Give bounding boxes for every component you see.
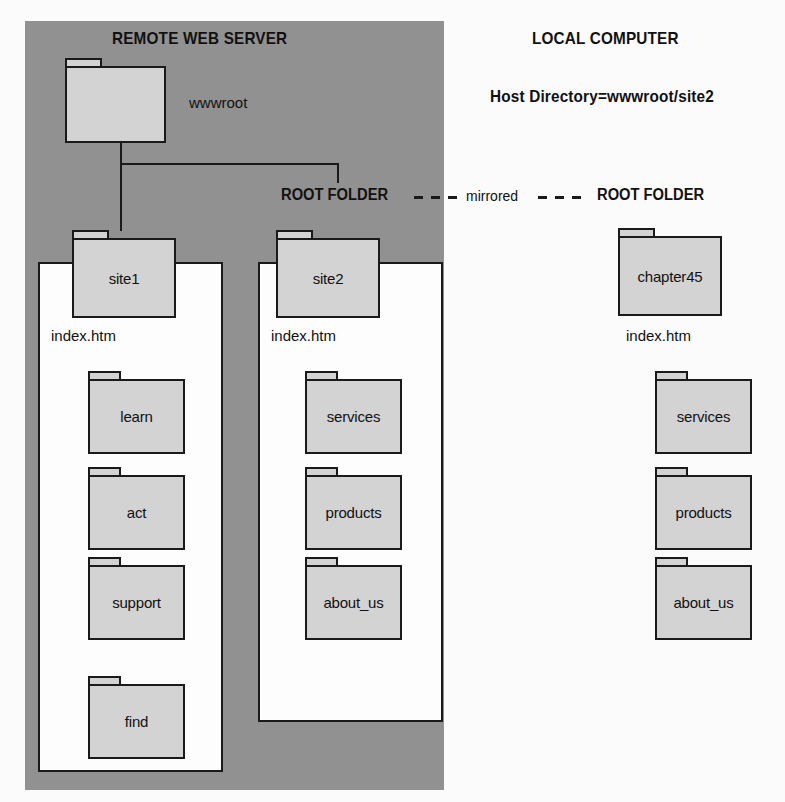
folder-label-site2: site2 <box>313 270 344 287</box>
folder-services-server[interactable]: services <box>305 371 402 454</box>
folder-label-find: find <box>125 713 148 730</box>
folder-about-us-local[interactable]: about_us <box>655 557 752 640</box>
folder-body: services <box>305 379 402 454</box>
folder-label-services: services <box>677 408 730 425</box>
folder-body: site1 <box>72 238 176 318</box>
folder-act[interactable]: act <box>88 467 185 550</box>
connector-branch-site2 <box>337 163 339 183</box>
mirrored-dash-left <box>414 196 460 199</box>
mirrored-label: mirrored <box>466 188 518 204</box>
local-computer-title: LOCAL COMPUTER <box>532 29 679 49</box>
remote-web-server-title: REMOTE WEB SERVER <box>112 29 287 49</box>
folder-body: learn <box>88 379 185 454</box>
site2-index-file: index.htm <box>271 327 336 344</box>
diagram-canvas: REMOTE WEB SERVER LOCAL COMPUTER Host Di… <box>0 0 785 802</box>
folder-chapter45[interactable]: chapter45 <box>618 228 722 316</box>
folder-site2[interactable]: site2 <box>276 230 380 318</box>
folder-label-support: support <box>112 594 161 611</box>
connector-branch-site1 <box>120 163 122 231</box>
folder-body: support <box>88 565 185 640</box>
folder-products-local[interactable]: products <box>655 467 752 550</box>
folder-body: site2 <box>276 238 380 318</box>
folder-learn[interactable]: learn <box>88 371 185 454</box>
folder-body <box>65 66 166 143</box>
folder-label-about-us: about_us <box>673 594 733 611</box>
folder-label-act: act <box>127 504 146 521</box>
folder-body: act <box>88 475 185 550</box>
folder-body: products <box>655 475 752 550</box>
site1-index-file: index.htm <box>51 327 116 344</box>
host-directory-label: Host Directory=wwwroot/site2 <box>490 87 714 107</box>
folder-body: about_us <box>655 565 752 640</box>
folder-body: find <box>88 684 185 759</box>
folder-find[interactable]: find <box>88 676 185 759</box>
mirrored-dash-right <box>538 196 584 199</box>
folder-services-local[interactable]: services <box>655 371 752 454</box>
local-index-file: index.htm <box>626 327 691 344</box>
folder-label-about-us: about_us <box>323 594 383 611</box>
folder-label-products: products <box>326 504 382 521</box>
folder-label-wwwroot: wwwroot <box>189 94 247 111</box>
root-folder-label-local: ROOT FOLDER <box>597 186 704 204</box>
folder-wwwroot[interactable] <box>65 58 166 143</box>
folder-body: about_us <box>305 565 402 640</box>
folder-label-products: products <box>676 504 732 521</box>
folder-products-server[interactable]: products <box>305 467 402 550</box>
folder-label-services: services <box>327 408 380 425</box>
folder-body: chapter45 <box>618 236 722 316</box>
folder-body: services <box>655 379 752 454</box>
folder-site1[interactable]: site1 <box>72 230 176 318</box>
folder-label-learn: learn <box>120 408 152 425</box>
root-folder-label-server: ROOT FOLDER <box>281 186 388 204</box>
folder-about-us-server[interactable]: about_us <box>305 557 402 640</box>
connector-crossbar <box>120 163 339 165</box>
folder-body: products <box>305 475 402 550</box>
folder-label-chapter45: chapter45 <box>638 268 703 285</box>
folder-label-site1: site1 <box>109 270 140 287</box>
folder-support[interactable]: support <box>88 557 185 640</box>
connector-stem <box>120 143 122 165</box>
